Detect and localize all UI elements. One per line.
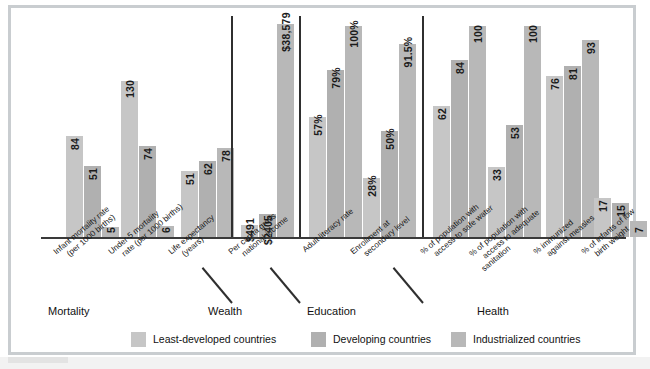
bar: $38,579 <box>277 24 294 237</box>
legend-label: Least-developed countries <box>153 333 276 345</box>
bar-value-label: 100 <box>527 25 539 43</box>
bar-value-label: 91.5% <box>402 36 414 67</box>
bars-container: 84515130746516278$491$2405$38,57957%79%1… <box>41 16 626 237</box>
chart-plot: 84515130746516278$491$2405$38,57957%79%1… <box>11 8 633 352</box>
bar-value-label: 33 <box>491 169 503 181</box>
bar-value-label: 28% <box>366 175 378 197</box>
group-separator <box>299 16 301 237</box>
bar-value-label: 76 <box>549 78 561 90</box>
group-name: Health <box>477 305 509 317</box>
chart-frame: 84515130746516278$491$2405$38,57957%79%1… <box>8 5 636 355</box>
bar: 62 <box>433 106 450 237</box>
bar-value-label: 84 <box>454 62 466 74</box>
legend-label: Developing countries <box>333 333 431 345</box>
legend-item[interactable]: Developing countries <box>311 332 431 347</box>
bar: 84 <box>66 136 83 237</box>
legend-swatch <box>311 332 326 347</box>
bar-value-label: 51 <box>184 173 196 185</box>
bar-value-label: 78 <box>220 149 232 161</box>
chart-legend: Least-developed countriesDeveloping coun… <box>11 328 639 350</box>
page-tab <box>8 357 68 363</box>
group-divider-tick <box>202 267 233 304</box>
bar: 91.5% <box>399 44 416 237</box>
bar-value-label: 74 <box>142 148 154 160</box>
bar-value-label: 17 <box>597 200 609 212</box>
bar-value-label: 79% <box>330 67 342 89</box>
bar: 57% <box>309 117 326 237</box>
bar-value-label: 53 <box>509 127 521 139</box>
group-name: Wealth <box>208 305 242 317</box>
group-name: Mortality <box>48 305 90 317</box>
group-labels: MortalityWealthEducationHealth <box>11 305 639 323</box>
bar-value-label: 100 <box>472 25 484 43</box>
page-edge <box>0 357 650 369</box>
bar-value-label: 130 <box>124 80 136 98</box>
legend-swatch <box>131 332 146 347</box>
bar-value-label: $38,579 <box>280 12 292 51</box>
bar-value-label: 93 <box>585 42 597 54</box>
legend-item[interactable]: Industrialized countries <box>451 332 580 347</box>
bar-value-label: 51 <box>87 168 99 180</box>
legend-item[interactable]: Least-developed countries <box>131 332 276 347</box>
category-labels: Infant mortality rate(per 1000 births)Un… <box>11 239 639 309</box>
group-divider-tick <box>270 267 301 304</box>
bar-value-label: 81 <box>567 68 579 80</box>
bar-value-label: 100% <box>348 20 360 48</box>
bar: 100% <box>345 26 362 237</box>
legend-label: Industrialized countries <box>473 333 580 345</box>
group-name: Education <box>307 305 356 317</box>
bar-value-label: 62 <box>202 163 214 175</box>
group-separator <box>231 16 233 237</box>
legend-swatch <box>451 332 466 347</box>
bar: 76 <box>546 76 563 237</box>
group-separator <box>422 16 424 237</box>
bar: 130 <box>121 81 138 237</box>
bar-value-label: 84 <box>69 138 81 150</box>
bar-value-label: 62 <box>436 108 448 120</box>
group-divider-tick <box>393 267 424 304</box>
bar-value-label: 57% <box>312 114 324 136</box>
bar-value-label: 50% <box>384 129 396 151</box>
